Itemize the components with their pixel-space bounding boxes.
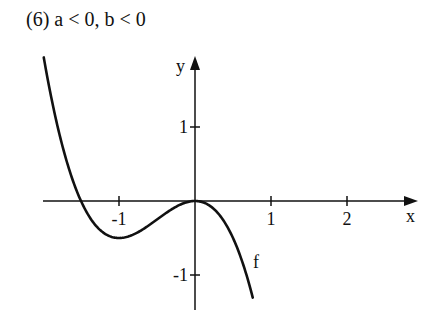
axes bbox=[43, 66, 408, 310]
y-axis-label: y bbox=[176, 56, 185, 76]
x-tick-label: 2 bbox=[343, 209, 352, 229]
curve-label: f bbox=[253, 252, 259, 272]
plot-area: -1121-1 x y f bbox=[0, 0, 438, 321]
y-tick-label: 1 bbox=[179, 117, 188, 137]
y-axis-arrow-icon bbox=[190, 56, 200, 70]
x-axis-label: x bbox=[406, 206, 415, 226]
function-curve bbox=[44, 57, 253, 297]
x-axis-arrow-icon bbox=[404, 196, 418, 206]
x-tick-label: -1 bbox=[112, 209, 127, 229]
x-tick-label: 1 bbox=[267, 209, 276, 229]
y-tick-label: -1 bbox=[173, 265, 188, 285]
